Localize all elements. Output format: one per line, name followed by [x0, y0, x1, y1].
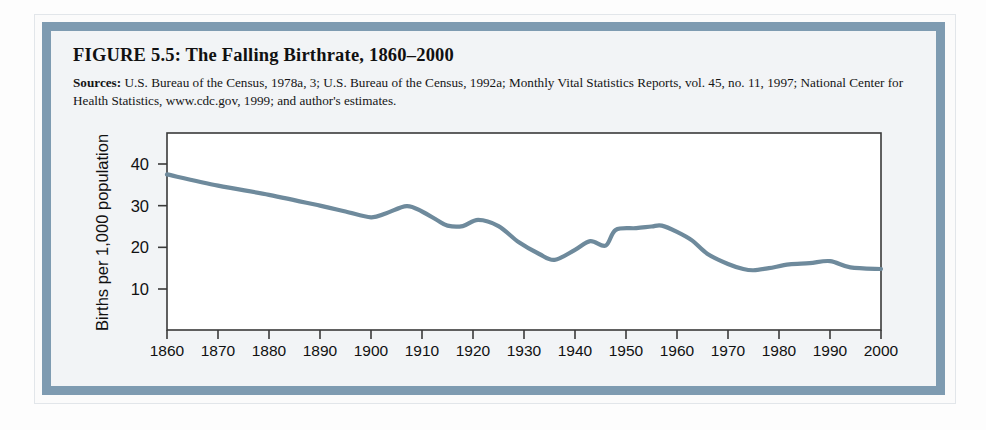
chart-container: Births per 1,000 population 10203040 186…: [51, 127, 912, 387]
figure-sources: Sources: U.S. Bureau of the Census, 1978…: [73, 74, 913, 109]
figure-root: FIGURE 5.5: The Falling Birthrate, 1860–…: [0, 0, 986, 430]
sources-label: Sources:: [73, 75, 121, 90]
figure-frame-band: FIGURE 5.5: The Falling Birthrate, 1860–…: [42, 22, 945, 395]
sources-text: U.S. Bureau of the Census, 1978a, 3; U.S…: [73, 75, 903, 107]
figure-frame-inner: FIGURE 5.5: The Falling Birthrate, 1860–…: [51, 31, 936, 386]
figure-title: FIGURE 5.5: The Falling Birthrate, 1860–…: [73, 45, 916, 65]
line-chart-plot: [51, 127, 912, 387]
figure-content: FIGURE 5.5: The Falling Birthrate, 1860–…: [51, 31, 936, 386]
plot-background: [167, 133, 881, 330]
